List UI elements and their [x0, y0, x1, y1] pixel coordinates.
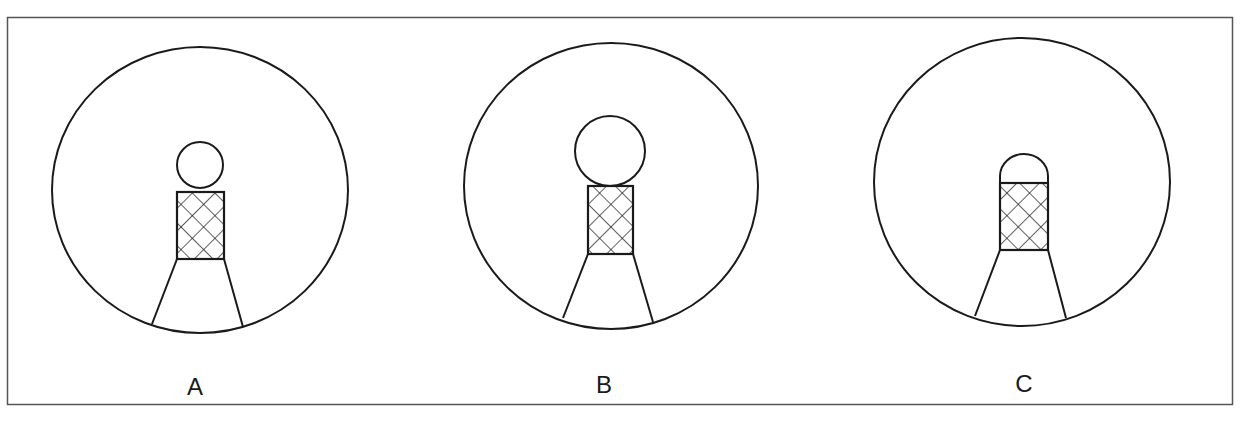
panel-label-c: C [1015, 370, 1032, 397]
hatched-body [1000, 183, 1048, 250]
panel-label-b: B [596, 371, 612, 398]
panel-c: C [874, 38, 1170, 397]
head-circle [575, 116, 645, 186]
hatched-body [177, 192, 224, 259]
hatched-body [588, 186, 633, 254]
trapezoid-base [563, 254, 653, 322]
head-dome [1000, 154, 1048, 183]
panel-a: A [52, 47, 348, 400]
trapezoid-base [975, 250, 1066, 318]
head-circle [177, 142, 223, 188]
panel-label-a: A [187, 373, 203, 400]
trapezoid-base [152, 259, 243, 327]
panel-b: B [464, 43, 758, 398]
diagram-canvas: A B C [0, 0, 1245, 421]
outer-circle [52, 47, 348, 333]
